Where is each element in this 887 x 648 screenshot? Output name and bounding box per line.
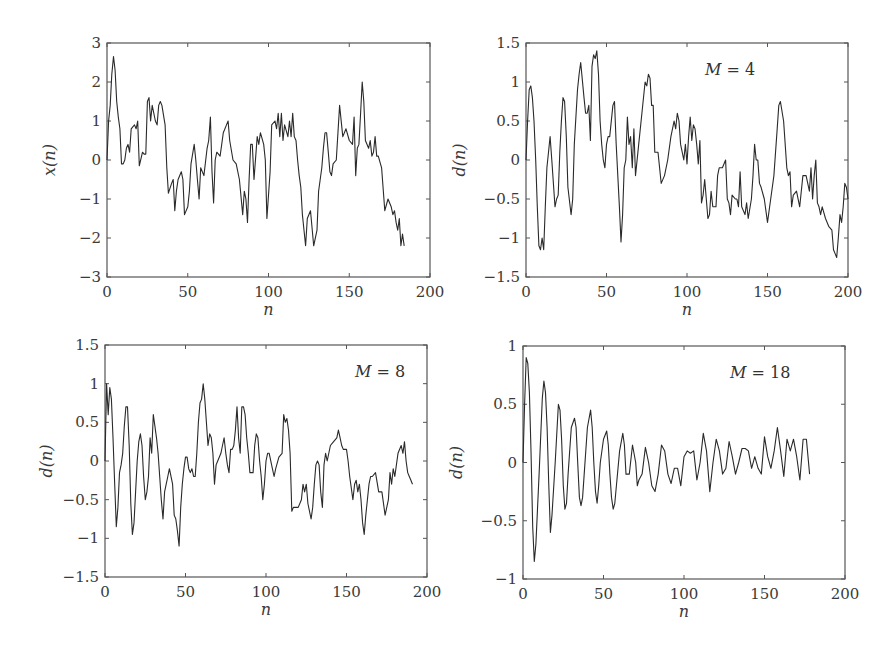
x-tick-label: 50 [594,585,613,603]
y-axis-label: d(n) [450,143,469,176]
y-tick-label: −0.5 [63,491,99,509]
chart-panel-bottom-left: 0501001502001.510.50−0.5−1−1.5nd(n)M = 8 [37,336,441,619]
y-tick-label: 0 [507,454,517,472]
y-axis-label: x(n) [40,144,59,176]
x-axis-label: n [679,602,689,621]
y-tick-label: −1 [77,529,99,547]
figure: 0501001502003210−1−2−3nx(n)0501001502001… [0,0,887,648]
y-tick-label: −1 [495,570,517,588]
data-line [523,358,810,562]
chart-panel-bottom-right: 05010015020010.50−0.5−1nd(n)M = 18 [447,337,859,621]
y-tick-label: 0 [89,452,99,470]
x-tick-label: 100 [673,283,702,301]
y-axis-label: d(n) [37,444,56,477]
chart-panel-top-left: 0501001502003210−1−2−3nx(n) [40,34,444,319]
x-tick-label: 50 [176,583,195,601]
y-tick-label: −3 [79,268,101,286]
y-tick-label: 1 [510,73,520,91]
y-tick-label: 2 [91,73,101,91]
x-tick-label: 50 [178,283,197,301]
chart-panel-top-right: 0501001502001.510.50−0.5−1−1.5nd(n)M = 4 [450,34,862,319]
x-tick-label: 200 [413,583,442,601]
x-tick-label: 100 [254,283,283,301]
x-tick-label: 0 [100,583,110,601]
x-axis-label: n [682,300,692,319]
x-tick-label: 50 [597,283,616,301]
x-tick-label: 150 [753,283,782,301]
plot-frame [523,346,845,579]
annotation-label: M = 4 [704,60,755,79]
y-tick-label: −0.5 [484,190,520,208]
y-tick-label: 0.5 [496,112,520,130]
y-tick-label: 3 [91,34,101,52]
y-tick-label: 1 [89,375,99,393]
annotation-label: M = 18 [729,363,790,382]
x-tick-label: 150 [750,585,779,603]
x-tick-label: 200 [416,283,445,301]
y-tick-label: 1 [91,112,101,130]
y-tick-label: −1 [498,229,520,247]
data-line [105,384,413,546]
x-tick-label: 0 [102,283,112,301]
x-tick-label: 150 [332,583,361,601]
y-tick-label: −1 [79,190,101,208]
x-tick-label: 200 [831,585,860,603]
x-axis-label: n [261,600,271,619]
y-tick-label: −1.5 [63,568,99,586]
plot-frame [107,43,430,277]
y-tick-label: −1.5 [484,268,520,286]
y-tick-label: −0.5 [481,512,517,530]
x-axis-label: n [263,300,273,319]
x-tick-label: 150 [335,283,364,301]
y-axis-label: d(n) [447,446,466,479]
x-tick-label: 100 [670,585,699,603]
y-tick-label: 0.5 [75,413,99,431]
x-tick-label: 0 [521,283,531,301]
y-tick-label: 1 [507,337,517,355]
y-tick-label: 1.5 [75,336,99,354]
data-line [526,51,848,258]
y-tick-label: −2 [79,229,101,247]
annotation-label: M = 8 [354,362,405,381]
data-line [107,57,404,246]
figure-canvas: 0501001502003210−1−2−3nx(n)0501001502001… [0,0,887,648]
y-tick-label: 0 [91,151,101,169]
y-tick-label: 1.5 [496,34,520,52]
y-tick-label: 0 [510,151,520,169]
x-tick-label: 0 [518,585,528,603]
x-tick-label: 100 [252,583,281,601]
y-tick-label: 0.5 [493,395,517,413]
x-tick-label: 200 [834,283,863,301]
